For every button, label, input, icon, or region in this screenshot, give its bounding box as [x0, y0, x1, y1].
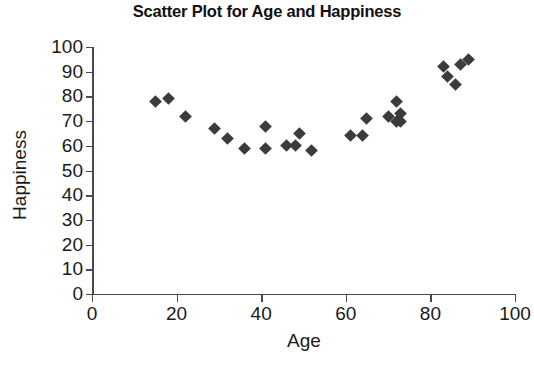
y-tick-label: 30	[62, 208, 83, 232]
data-point	[238, 142, 251, 155]
x-tick-label: 20	[166, 303, 187, 325]
data-point	[259, 142, 272, 155]
x-tick-mark	[515, 295, 516, 302]
x-tick-mark	[177, 295, 178, 302]
data-point	[449, 78, 462, 91]
y-axis-title: Happiness	[6, 90, 34, 260]
x-tick-label: 0	[87, 303, 98, 325]
data-point	[221, 132, 234, 145]
x-tick-label: 80	[420, 303, 441, 325]
data-point	[361, 112, 374, 125]
data-point	[149, 95, 162, 108]
data-point	[344, 130, 357, 143]
x-tick-mark	[346, 295, 347, 302]
y-tick-label: 100	[51, 35, 83, 59]
x-axis-title: Age	[92, 330, 516, 352]
y-tick-label: 10	[62, 257, 83, 281]
y-tick-label: 50	[62, 159, 83, 183]
data-point	[162, 92, 175, 105]
chart-title: Scatter Plot for Age and Happiness	[0, 2, 534, 21]
x-tick-label: 60	[335, 303, 356, 325]
y-tick-label: 20	[62, 233, 83, 257]
x-tick-label: 100	[499, 303, 531, 325]
data-point	[306, 144, 319, 157]
y-tick-label: 0	[72, 282, 83, 306]
x-tick-mark	[261, 295, 262, 302]
data-point	[390, 95, 403, 108]
data-point	[179, 110, 192, 123]
y-tick-label: 60	[62, 134, 83, 158]
data-point	[356, 130, 369, 143]
x-tick-mark	[430, 295, 431, 302]
scatter-chart: Scatter Plot for Age and Happiness Happi…	[0, 0, 534, 365]
x-tick-label: 40	[251, 303, 272, 325]
data-point	[289, 139, 302, 152]
y-axis-title-label: Happiness	[9, 130, 31, 220]
y-tick-label: 90	[62, 60, 83, 84]
x-tick-mark	[92, 295, 93, 302]
y-tick-label: 80	[62, 84, 83, 108]
plot-area	[92, 47, 515, 294]
y-tick-label: 70	[62, 109, 83, 133]
data-point	[208, 122, 221, 135]
y-tick-label: 40	[62, 183, 83, 207]
data-point	[259, 120, 272, 133]
